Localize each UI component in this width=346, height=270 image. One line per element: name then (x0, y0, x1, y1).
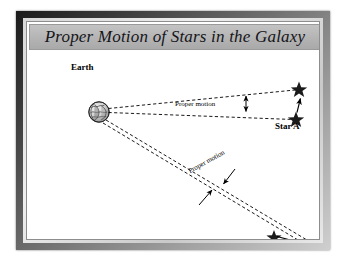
label-earth: Earth (71, 62, 94, 72)
page-title: Proper Motion of Stars in the Galaxy (45, 28, 306, 46)
diagram-canvas: Earth Star A Star B Proper motion Proper… (27, 50, 320, 240)
figure-root: Proper Motion of Stars in the Galaxy (0, 0, 346, 270)
figure-title-banner: Proper Motion of Stars in the Galaxy (29, 24, 320, 50)
star-a-end-star-icon (291, 82, 307, 98)
diagram-svg (27, 50, 320, 240)
earth-globe-icon (89, 102, 109, 122)
picture-frame-outer: Proper Motion of Stars in the Galaxy (16, 11, 330, 250)
picture-frame-bevel: Proper Motion of Stars in the Galaxy (23, 18, 323, 243)
proper-motion-bottom-arrow-upper (224, 169, 236, 184)
sightline-star-b-lower (103, 123, 313, 240)
star-a-motion-arrow (297, 99, 300, 113)
figure-canvas-area: Proper Motion of Stars in the Galaxy (26, 21, 320, 240)
label-star-a: Star A (275, 121, 300, 131)
label-proper-motion-top: Proper motion (175, 100, 215, 108)
proper-motion-bottom-arrow-lower (199, 190, 212, 205)
sightline-star-a-lower (109, 113, 294, 120)
star-b-start-star-icon (266, 230, 281, 240)
sightline-star-b-upper (106, 120, 317, 240)
star-b-motion-arrow (277, 237, 315, 241)
